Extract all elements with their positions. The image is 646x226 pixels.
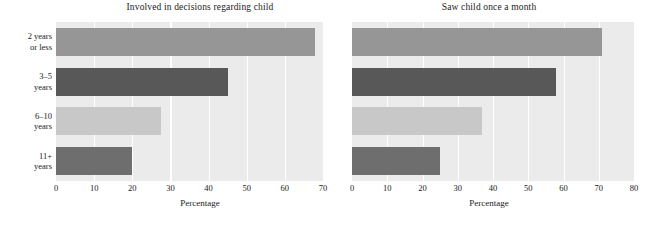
bar bbox=[56, 28, 315, 56]
x-tick-label: 20 bbox=[128, 183, 137, 193]
x-tick-label: 30 bbox=[454, 183, 463, 193]
category-label-line2: years bbox=[0, 121, 52, 132]
gridline bbox=[323, 22, 324, 181]
panel-involved-in-decisions: Involved in decisions regarding child 2 … bbox=[0, 0, 332, 226]
panel-saw-child-once-a-month: Saw child once a month 01020304050607080… bbox=[332, 0, 646, 226]
category-label: 11+years bbox=[0, 151, 52, 172]
plot-area bbox=[352, 22, 634, 181]
x-tick-label: 70 bbox=[319, 183, 328, 193]
x-tick-label: 30 bbox=[166, 183, 175, 193]
bar-row bbox=[352, 147, 440, 175]
gridline bbox=[634, 22, 635, 181]
panel-title: Saw child once a month bbox=[332, 2, 646, 12]
bar bbox=[56, 107, 161, 135]
bar-row: 6–10years bbox=[56, 107, 161, 135]
x-tick-label: 80 bbox=[630, 183, 639, 193]
x-tick-label: 50 bbox=[242, 183, 251, 193]
bar bbox=[352, 28, 602, 56]
category-label-line1: 6–10 bbox=[0, 111, 52, 122]
x-tick-label: 70 bbox=[595, 183, 604, 193]
bar-row bbox=[352, 107, 482, 135]
x-tick-label: 20 bbox=[418, 183, 427, 193]
category-label-line1: 3–5 bbox=[0, 71, 52, 82]
bar-row bbox=[352, 68, 556, 96]
x-tick-label: 0 bbox=[350, 183, 354, 193]
bar bbox=[352, 147, 440, 175]
category-label-line2: years bbox=[0, 82, 52, 93]
bar-row bbox=[352, 28, 602, 56]
x-tick-label: 10 bbox=[383, 183, 392, 193]
bar bbox=[352, 68, 556, 96]
x-tick-label: 50 bbox=[524, 183, 533, 193]
category-label-line2: or less bbox=[0, 42, 52, 53]
bar-row: 11+years bbox=[56, 147, 132, 175]
x-tick-label: 0 bbox=[54, 183, 58, 193]
plot-area: 2 yearsor less3–5years6–10years11+years bbox=[56, 22, 323, 181]
bar-row: 3–5years bbox=[56, 68, 228, 96]
x-axis-title: Percentage bbox=[0, 198, 366, 208]
x-tick-label: 60 bbox=[281, 183, 290, 193]
category-label-line2: years bbox=[0, 161, 52, 172]
x-axis-title: Percentage bbox=[332, 198, 646, 208]
x-tick-label: 60 bbox=[559, 183, 568, 193]
bar bbox=[56, 68, 228, 96]
panel-title: Involved in decisions regarding child bbox=[0, 2, 366, 12]
bar-row: 2 yearsor less bbox=[56, 28, 315, 56]
category-label: 3–5years bbox=[0, 71, 52, 92]
category-label-line1: 2 years bbox=[0, 31, 52, 42]
figure-two-panel-bar-chart: Involved in decisions regarding child 2 … bbox=[0, 0, 646, 226]
bar bbox=[352, 107, 482, 135]
x-tick-label: 40 bbox=[204, 183, 213, 193]
category-label: 6–10years bbox=[0, 111, 52, 132]
category-label: 2 yearsor less bbox=[0, 31, 52, 52]
x-tick-label: 10 bbox=[90, 183, 99, 193]
category-label-line1: 11+ bbox=[0, 151, 52, 162]
x-tick-label: 40 bbox=[489, 183, 498, 193]
bar bbox=[56, 147, 132, 175]
